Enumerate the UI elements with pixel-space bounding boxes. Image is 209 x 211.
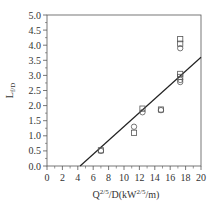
y-axis: 0.00.51.01.52.02.53.03.54.04.55.0 <box>29 10 48 172</box>
y-tick-label: 2.5 <box>29 85 42 96</box>
y-tick-label: 0.5 <box>29 145 42 156</box>
circle-marker <box>131 124 136 129</box>
chart: 0.00.51.01.52.02.53.03.54.04.55.0 024681… <box>0 0 209 211</box>
square-marker <box>131 130 136 135</box>
x-tick-label: 2 <box>60 172 65 183</box>
x-tick-label: 20 <box>196 172 206 183</box>
y-tick-label: 5.0 <box>29 10 42 21</box>
x-tick-label: 6 <box>91 172 96 183</box>
x-tick-label: 16 <box>165 172 175 183</box>
y-tick-label: 4.0 <box>29 40 42 51</box>
x-tick-label: 18 <box>181 172 191 183</box>
x-tick-label: 0 <box>45 172 50 183</box>
x-tick-label: 14 <box>150 172 160 183</box>
x-tick-label: 10 <box>119 172 129 183</box>
y-tick-label: 3.5 <box>29 55 42 66</box>
y-tick-label: 4.5 <box>29 25 42 36</box>
data-points <box>98 37 183 154</box>
x-tick-label: 8 <box>106 172 111 183</box>
y-tick-label: 1.0 <box>29 130 42 141</box>
y-tick-label: 0.0 <box>29 161 42 172</box>
x-axis: 02468101214161820 <box>45 166 207 183</box>
x-tick-label: 4 <box>75 172 80 183</box>
y-tick-label: 1.5 <box>29 115 42 126</box>
y-axis-title: Lf/D <box>4 83 17 98</box>
y-tick-label: 3.0 <box>29 70 42 81</box>
y-tick-label: 2.0 <box>29 100 42 111</box>
x-tick-label: 12 <box>134 172 144 183</box>
x-axis-title: Q2/5/D(kW2/5/m) <box>93 188 160 201</box>
